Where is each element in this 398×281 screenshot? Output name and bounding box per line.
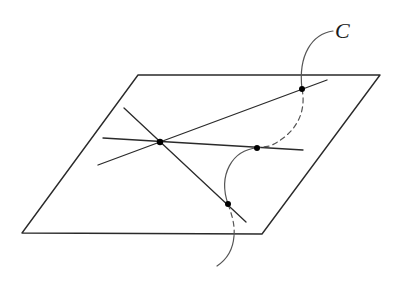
curve-line-horizontal-point xyxy=(254,145,260,151)
curve-line-descending-point xyxy=(225,201,231,207)
common-intersection-point xyxy=(157,139,163,145)
curve-c-middle-segment xyxy=(225,148,257,204)
line-ascending xyxy=(98,80,327,165)
curve-label: C xyxy=(335,18,350,43)
plane-curve-diagram: C xyxy=(0,0,398,281)
curve-line-ascending-point xyxy=(299,86,305,92)
curve-c-lower-segment xyxy=(217,236,234,266)
plane-parallelogram xyxy=(22,75,380,234)
curve-c-upper-segment xyxy=(301,31,333,89)
